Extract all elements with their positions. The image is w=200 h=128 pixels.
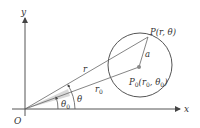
radius-a-label: a xyxy=(145,49,150,59)
origin-label: O xyxy=(14,116,22,126)
point-p-label: P(r, θ) xyxy=(149,27,176,37)
center-point-p0 xyxy=(137,65,141,69)
segment-r0-label: r0 xyxy=(95,84,103,95)
polar-circle-diagram: y x O P(r, θ) a r r0 θ0 θ P0(r0, θ0) xyxy=(0,0,200,128)
point-p0-label: P0(r0, θ0) xyxy=(128,77,167,88)
angle-theta-label: θ xyxy=(77,94,82,104)
angle-theta0-label: θ0 xyxy=(61,99,70,110)
y-axis-label: y xyxy=(20,7,27,17)
x-axis-label: x xyxy=(184,104,189,114)
